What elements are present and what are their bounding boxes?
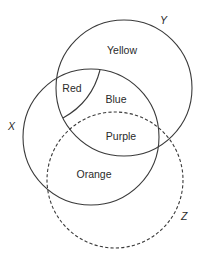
region-yellow-label: Yellow xyxy=(107,44,137,56)
set-y-label: Y xyxy=(160,14,168,26)
red-blue-divider-arc xyxy=(63,70,100,118)
region-blue-label: Blue xyxy=(105,93,126,105)
region-orange-label: Orange xyxy=(76,168,111,180)
set-x-circle xyxy=(23,69,159,205)
set-x-label: X xyxy=(7,120,16,132)
set-z-label: Z xyxy=(180,210,188,222)
region-purple-label: Purple xyxy=(106,130,137,142)
region-red-label: Red xyxy=(62,82,81,94)
venn-diagram: Y X Z Yellow Red Blue Purple Orange xyxy=(0,0,205,262)
